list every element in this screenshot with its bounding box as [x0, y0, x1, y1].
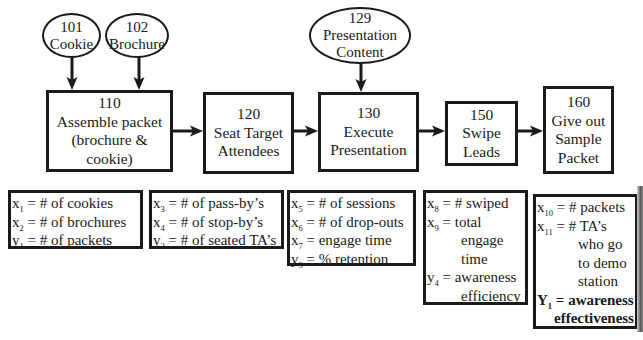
- metrics-160: x10 = # packets x11 = # TA’s who go to d…: [533, 194, 638, 329]
- step-label: Execute: [344, 123, 394, 142]
- metrics-150: x8 = # swiped x9 = total engage time y4 …: [423, 190, 528, 305]
- step-label: Presentation: [330, 141, 407, 160]
- metric-line: y1 = # of packets: [12, 231, 140, 250]
- step-160-give-out-sample-packet: 160 Give out Sample Packet: [543, 86, 614, 174]
- step-label: Assemble packet: [57, 113, 162, 132]
- step-label: (brochure &: [71, 131, 147, 150]
- metric-line: x1 = # of cookies: [12, 194, 140, 213]
- metric-line-continued: time: [427, 250, 525, 269]
- metric-line-outcome: Y1 = awareness: [537, 291, 635, 310]
- metric-line: x10 = # packets: [537, 198, 635, 217]
- input-label: Content: [336, 44, 384, 61]
- step-label: Give out: [552, 112, 606, 131]
- metric-line: x9 = total: [427, 213, 525, 232]
- metric-line: y3 = % retention: [291, 250, 413, 269]
- step-150-swipe-leads: 150 Swipe Leads: [445, 101, 518, 166]
- input-id: 129: [349, 10, 372, 27]
- metrics-130: x5 = # of sessions x6 = # of drop-outs x…: [287, 190, 416, 266]
- step-label: cookie): [86, 150, 132, 169]
- step-label: Leads: [463, 143, 500, 162]
- input-102-brochure: 102 Brochure: [105, 13, 169, 58]
- metric-line-continued: engage: [427, 231, 525, 250]
- metric-line: x4 = # of stop-by’s: [153, 213, 281, 232]
- metric-line-continued: to demo: [537, 254, 635, 273]
- metric-line: x8 = # swiped: [427, 194, 525, 213]
- metric-line: y4 = awareness: [427, 268, 525, 287]
- step-120-seat-target-attendees: 120 Seat Target Attendees: [203, 92, 294, 174]
- metric-line: x3 = # of pass-by’s: [153, 194, 281, 213]
- metric-line: x6 = # of drop-outs: [291, 213, 413, 232]
- step-110-assemble-packet: 110 Assemble packet (brochure & cookie): [46, 90, 173, 172]
- metric-line: x7 = engage time: [291, 231, 413, 250]
- metric-line-continued: station: [537, 272, 635, 291]
- input-label: Cookie: [50, 36, 93, 53]
- step-130-execute-presentation: 130 Execute Presentation: [318, 92, 419, 172]
- step-label: Sample: [555, 130, 602, 149]
- process-flow-diagram: 101 Cookie 102 Brochure 129 Presentation…: [0, 0, 643, 340]
- step-label: Attendees: [218, 142, 280, 161]
- metric-line: y2 = # of seated TA’s: [153, 231, 281, 250]
- input-101-cookie: 101 Cookie: [42, 13, 101, 58]
- step-id: 110: [98, 94, 121, 113]
- metric-line-continued: who go: [537, 235, 635, 254]
- metrics-110: x1 = # of cookies x2 = # of brochures y1…: [8, 190, 143, 249]
- step-id: 150: [470, 106, 493, 125]
- input-label: Presentation: [323, 27, 397, 44]
- step-label: Seat Target: [214, 124, 283, 143]
- metric-line: x2 = # of brochures: [12, 213, 140, 232]
- scan-edge-shadow: [637, 186, 643, 332]
- step-label: Packet: [558, 149, 599, 168]
- metric-line: x5 = # of sessions: [291, 194, 413, 213]
- metrics-120: x3 = # of pass-by’s x4 = # of stop-by’s …: [149, 190, 284, 249]
- step-id: 160: [567, 93, 590, 112]
- input-129-presentation-content: 129 Presentation Content: [309, 7, 411, 64]
- metric-line: x11 = # TA’s: [537, 217, 635, 236]
- metric-line-continued: effectiveness: [537, 309, 635, 328]
- metric-line-continued: efficiency: [427, 287, 525, 306]
- input-id: 102: [126, 19, 149, 36]
- input-label: Brochure: [109, 36, 165, 53]
- step-id: 120: [237, 105, 260, 124]
- step-label: Swipe: [462, 124, 501, 143]
- step-id: 130: [357, 104, 380, 123]
- input-id: 101: [60, 19, 83, 36]
